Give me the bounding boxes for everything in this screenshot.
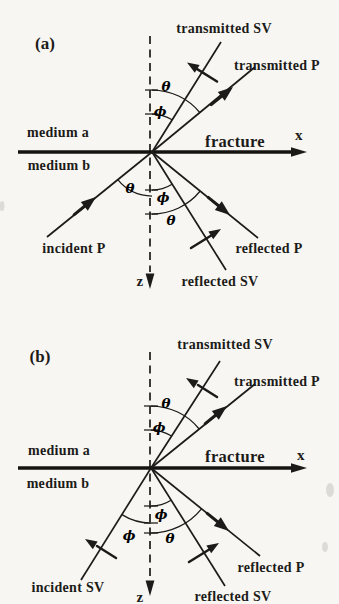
reflected-sv-polarization-arrowhead-icon	[206, 543, 219, 553]
x-axis-label: x	[295, 127, 303, 143]
scanned-figure: (a) z x fracture medium a medium b trans…	[0, 0, 339, 604]
transmitted-sv-label: transmitted SV	[177, 337, 273, 352]
z-axis-label: z	[137, 589, 144, 604]
phi-reflected-label: ϕ	[157, 189, 170, 205]
phi-transmitted-label: ϕ	[154, 103, 167, 119]
incident-p-label: incident P	[42, 241, 105, 256]
reflected-sv-ray	[151, 468, 225, 586]
panel-b-tag: (b)	[30, 347, 51, 366]
z-axis-label: z	[137, 273, 144, 289]
medium-a-label: medium a	[27, 125, 89, 140]
theta-reflected-label: θ	[165, 530, 174, 546]
medium-b-label: medium b	[28, 158, 91, 173]
phi-incident-label: ϕ	[123, 527, 136, 543]
panel-a: (a) z x fracture medium a medium b trans…	[0, 21, 320, 290]
z-axis-arrowhead-icon	[146, 274, 155, 290]
scan-artifact	[326, 483, 334, 497]
transmitted-sv-polarization-arrowhead-icon	[187, 63, 200, 73]
transmitted-sv-label: transmitted SV	[176, 21, 272, 36]
incident-sv-ray	[81, 468, 151, 580]
x-axis-label: x	[297, 447, 305, 463]
panel-b: (b) z x fracture medium a medium b trans…	[18, 337, 334, 604]
theta-incident-label: θ	[125, 180, 134, 196]
medium-a-label: medium a	[28, 443, 90, 458]
incident-angle-arc	[122, 515, 151, 523]
theta-transmitted-label: θ	[161, 78, 170, 94]
incident-sv-polarization-arrow	[97, 546, 116, 558]
scan-artifact	[322, 542, 328, 552]
wave-diagram-svg: (a) z x fracture medium a medium b trans…	[0, 0, 339, 604]
transmitted-p-label: transmitted P	[234, 374, 320, 389]
transmitted-sv-polarization-arrow	[196, 68, 217, 81]
z-axis-arrowhead-icon	[146, 581, 155, 597]
transmitted-p-label: transmitted P	[234, 58, 320, 73]
incident-angle-arc	[118, 180, 152, 196]
theta-reflected-label: θ	[166, 212, 175, 228]
reflected-p-label: reflected P	[237, 560, 304, 575]
theta-transmitted-label: θ	[161, 395, 170, 411]
reflected-sv-label: reflected SV	[182, 274, 259, 289]
reflected-p-label: reflected P	[235, 241, 302, 256]
phi-transmitted-label: ϕ	[153, 419, 166, 435]
transmitted-sv-polarization-arrowhead-icon	[186, 378, 199, 388]
reflected-sv-polarization-arrowhead-icon	[208, 229, 221, 239]
fracture-label: fracture	[205, 132, 265, 151]
incident-sv-polarization-arrowhead-icon	[85, 539, 98, 549]
x-axis-arrowhead-icon	[291, 147, 307, 157]
phi-reflected-label: ϕ	[155, 506, 168, 522]
incident-sv-label: incident SV	[32, 580, 105, 595]
scan-artifact	[0, 201, 5, 211]
medium-b-label: medium b	[27, 476, 90, 491]
panel-a-tag: (a)	[35, 34, 55, 53]
reflected-sv-ray	[152, 152, 226, 270]
reflected-sv-label: reflected SV	[195, 589, 272, 604]
x-axis-arrowhead-icon	[291, 463, 307, 473]
fracture-label: fracture	[205, 447, 265, 466]
